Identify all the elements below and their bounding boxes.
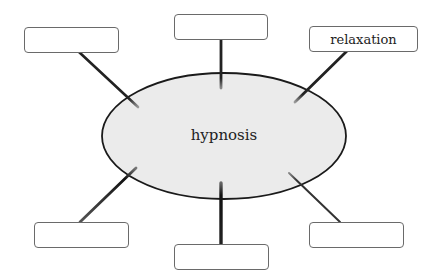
node-box-top-left[interactable] — [24, 27, 119, 53]
node-box-bottom-left[interactable] — [34, 222, 129, 248]
node-box-top-right[interactable]: relaxation — [309, 26, 418, 52]
node-box-bottom-right[interactable] — [309, 222, 404, 248]
connector-top-left — [79, 52, 138, 107]
connector-bottom-left — [80, 168, 136, 222]
node-box-top-center[interactable] — [174, 14, 268, 40]
connector-top-right — [295, 51, 347, 102]
center-label: hypnosis — [154, 126, 294, 144]
node-box-bottom-center[interactable] — [174, 244, 269, 270]
connector-bottom-right — [289, 173, 340, 222]
